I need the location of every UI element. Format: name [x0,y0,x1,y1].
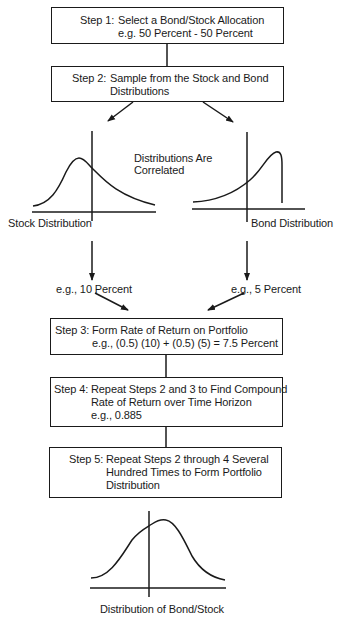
correlation-note-line-1: Distributions Are [134,152,212,164]
step-4-box: Step 4: Repeat Steps 2 and 3 to Find Com… [50,377,283,427]
arrow-to-bond [203,102,233,122]
step-1-prefix: Step 1: [80,14,114,26]
step-5-line-2: Hundred Times to Form Portfolio [106,466,262,478]
correlation-note-line-2: Correlated [134,164,184,176]
step-5-box: Step 5: Repeat Steps 2 through 4 Several… [49,447,282,498]
arrow-bond-to-step3 [208,293,244,310]
step-2-line-2: Distributions [110,85,169,97]
step-1-line-1: Select a Bond/Stock Allocation [118,14,264,26]
step-3-box: Step 3: Form Rate of Return on Portfolio… [50,318,283,355]
step-1-line-2: e.g. 50 Percent - 50 Percent [118,27,253,39]
step-5-line-3: Distribution [106,479,160,491]
step-4-line-3: e.g., 0.885 [91,409,142,421]
step-4-prefix: Step 4: [54,383,88,395]
step-2-prefix: Step 2: [72,72,106,84]
step-2-line-1: Sample from the Stock and Bond [110,72,268,84]
arrow-stock-to-step3 [95,293,128,310]
step-3-line-1: Form Rate of Return on Portfolio [92,324,248,336]
portfolio-distribution-label: Distribution of Bond/Stock [100,603,224,615]
portfolio-distribution-chart [90,511,226,597]
stock-sample-label: e.g., 10 Percent [56,283,132,295]
step-3-prefix: Step 3: [55,324,89,336]
bond-sample-label: e.g., 5 Percent [231,283,301,295]
bond-distribution-chart [192,132,305,222]
stock-distribution-chart [32,131,156,221]
arrow-to-stock [108,102,133,121]
step-3-line-2: e.g., (0.5) (10) + (0.5) (5) = 7.5 Perce… [92,337,278,349]
step-1-box: Step 1: Select a Bond/Stock Allocation e… [51,7,284,44]
step-5-line-1: Repeat Steps 2 through 4 Several [106,453,269,465]
step-2-box: Step 2: Sample from the Stock and Bond D… [51,66,284,102]
bond-distribution-label: Bond Distribution [251,217,333,229]
step-4-line-1: Repeat Steps 2 and 3 to Find Compound [91,383,287,395]
stock-distribution-label: Stock Distribution [8,217,92,229]
step-4-line-2: Rate of Return over Time Horizon [91,396,252,408]
step-5-prefix: Step 5: [69,453,103,465]
